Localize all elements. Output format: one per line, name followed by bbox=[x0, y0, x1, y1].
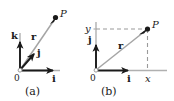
panel-b-graphics bbox=[0, 0, 174, 101]
panel-b-point-label: P bbox=[152, 20, 159, 30]
vector-diagram-figure: P k r j i 0 (a) bbox=[0, 0, 174, 101]
panel-b-caption: (b) bbox=[101, 86, 117, 97]
panel-b-i-label: i bbox=[127, 74, 131, 84]
panel-b-origin-marker bbox=[94, 68, 98, 72]
panel-b-origin-label: 0 bbox=[90, 74, 96, 83]
panel-b-x-axis-label: x bbox=[145, 74, 151, 84]
panel-b: P y j r i x 0 (b) bbox=[0, 0, 174, 101]
panel-b-r-label: r bbox=[118, 41, 123, 51]
panel-b-j-label: j bbox=[88, 35, 92, 45]
panel-b-y-axis-label: y bbox=[85, 24, 91, 34]
